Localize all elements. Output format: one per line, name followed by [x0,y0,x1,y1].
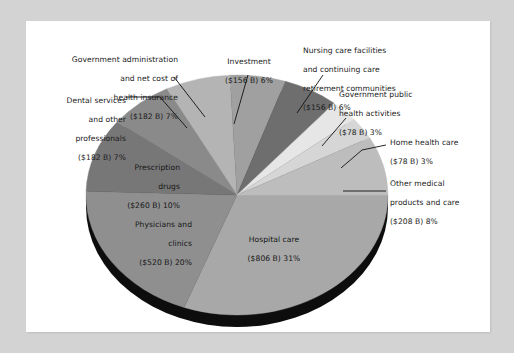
label-prescription-line2: drugs [158,182,180,191]
label-physicians: Physicians and clinics ($520 B) 20% [82,210,192,268]
label-prescription-line1: Prescription [135,163,180,172]
label-prescription: Prescription drugs ($260 B) 10% [86,153,180,211]
label-gov-public-health-line3: ($78 B) 3% [339,128,382,137]
label-other-medical: Other medical products and care ($208 B)… [390,169,490,227]
pie-chart: Government administration and net cost o… [26,21,490,332]
label-prescription-line3: ($260 B) 10% [127,201,180,210]
label-home-health-line1: Home health care [390,138,459,147]
label-dental-line3: professionals [75,134,126,143]
label-investment: Investment ($156 B) 6% [204,47,294,85]
chart-panel: Government administration and net cost o… [26,21,490,332]
label-investment-line1: Investment [227,57,271,66]
label-nursing-line1: Nursing care facilities [303,46,386,55]
label-hospital: Hospital care ($806 B) 31% [219,225,329,263]
label-gov-public-health-line1: Government public [339,90,412,99]
screenshot-root: Government administration and net cost o… [0,0,514,353]
label-gov-admin-line1: Government administration [72,55,178,64]
label-gov-public-health-line2: health activities [339,109,401,118]
label-dental: Dental services and other professionals … [30,86,126,163]
label-dental-line1: Dental services [67,96,126,105]
label-dental-line2: and other [89,115,126,124]
label-investment-line2: ($156 B) 6% [225,76,273,85]
label-home-health: Home health care ($78 B) 3% [390,128,490,166]
label-physicians-line1: Physicians and [135,220,192,229]
label-other-medical-line3: ($208 B) 8% [390,217,438,226]
label-nursing-line2: and continuing care [303,65,380,74]
label-gov-admin-line4: ($182 B) 7% [130,112,178,121]
label-other-medical-line2: products and care [390,198,460,207]
label-hospital-line2: ($806 B) 31% [248,254,301,263]
label-other-medical-line1: Other medical [390,179,445,188]
label-home-health-line2: ($78 B) 3% [390,157,433,166]
label-physicians-line2: clinics [168,239,192,248]
label-gov-admin-line2: and net cost of [120,74,178,83]
label-hospital-line1: Hospital care [249,235,300,244]
label-physicians-line3: ($520 B) 20% [139,258,192,267]
